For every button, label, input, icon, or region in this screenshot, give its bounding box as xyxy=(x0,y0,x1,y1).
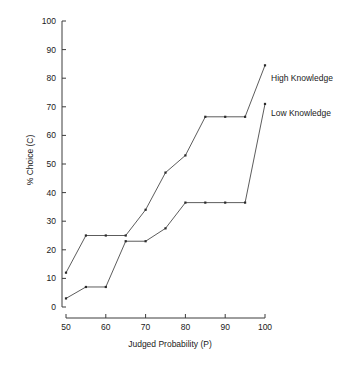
data-point xyxy=(164,227,166,229)
series-line-low-knowledge xyxy=(66,104,265,298)
data-point xyxy=(224,116,226,118)
series-labels: High KnowledgeLow Knowledge xyxy=(271,73,333,117)
data-point xyxy=(65,297,67,299)
y-tick-label: 30 xyxy=(47,216,57,226)
series-line-high-knowledge xyxy=(66,65,265,272)
x-tick-label: 50 xyxy=(61,322,71,332)
data-point xyxy=(125,234,127,236)
data-point xyxy=(224,202,226,204)
y-tick-label: 60 xyxy=(47,130,57,140)
data-point xyxy=(145,240,147,242)
x-tick-label: 100 xyxy=(258,322,272,332)
chart-container: 0102030405060708090100 5060708090100 Hig… xyxy=(0,0,341,372)
y-tick-label: 100 xyxy=(42,16,56,26)
data-point xyxy=(85,286,87,288)
data-point xyxy=(184,202,186,204)
data-point xyxy=(145,209,147,211)
data-point xyxy=(264,103,266,105)
y-tick-label: 70 xyxy=(47,102,57,112)
y-tick-label: 50 xyxy=(47,159,57,169)
data-point xyxy=(85,234,87,236)
data-point xyxy=(244,202,246,204)
x-axis-title: Judged Probability (P) xyxy=(128,339,212,349)
y-axis: 0102030405060708090100 xyxy=(42,16,66,312)
y-tick-label: 40 xyxy=(47,188,57,198)
series-layer xyxy=(65,64,266,299)
y-tick-label: 80 xyxy=(47,73,57,83)
data-point xyxy=(65,272,67,274)
series-label-high-knowledge: High Knowledge xyxy=(271,73,333,83)
y-axis-title: % Choice (C) xyxy=(25,135,35,186)
data-point xyxy=(105,234,107,236)
data-point xyxy=(244,116,246,118)
data-point xyxy=(125,240,127,242)
y-tick-label: 0 xyxy=(51,302,56,312)
data-point xyxy=(184,154,186,156)
data-point xyxy=(204,202,206,204)
x-tick-label: 60 xyxy=(101,322,111,332)
x-axis: 5060708090100 xyxy=(61,314,272,332)
x-tick-label: 90 xyxy=(220,322,230,332)
data-point xyxy=(264,64,266,66)
x-tick-label: 70 xyxy=(141,322,151,332)
data-point xyxy=(204,116,206,118)
data-point xyxy=(105,286,107,288)
x-tick-label: 80 xyxy=(181,322,191,332)
data-point xyxy=(164,171,166,173)
line-chart: 0102030405060708090100 5060708090100 Hig… xyxy=(0,0,341,372)
y-tick-label: 90 xyxy=(47,45,57,55)
y-tick-label: 10 xyxy=(47,273,57,283)
series-label-low-knowledge: Low Knowledge xyxy=(271,108,331,118)
y-tick-label: 20 xyxy=(47,245,57,255)
